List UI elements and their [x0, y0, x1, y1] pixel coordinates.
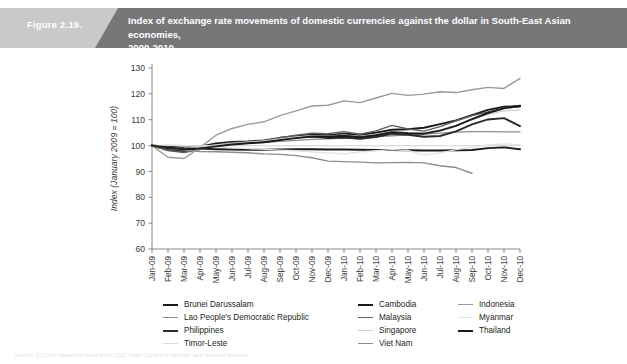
- y-axis-tick-label: 120: [131, 89, 146, 99]
- legend-swatch-icon: [458, 304, 473, 305]
- legend-item[interactable]: Indonesia: [458, 300, 558, 309]
- x-axis-tick-label: Nov-10: [500, 256, 509, 283]
- x-axis-tick-label: Nov-09: [308, 256, 317, 283]
- x-axis: Jan-09Feb-09Mar-09Apr-09May-09Jun-09Jul-…: [148, 249, 525, 283]
- source-note: Source: ESCAP, based on data from CEIC D…: [14, 352, 614, 358]
- figure-title: Index of exchange rate movements of dome…: [128, 14, 620, 55]
- y-axis-title: Index (January 2009 = 100): [109, 106, 119, 211]
- x-axis-tick-label: Jun-10: [420, 256, 429, 281]
- legend-item-label: Brunei Darussalam: [184, 300, 254, 309]
- x-axis-tick-label: Dec-09: [324, 256, 333, 283]
- legend-item[interactable]: Myanmar: [458, 313, 558, 322]
- legend-item-label: Indonesia: [479, 300, 515, 309]
- legend-item[interactable]: Brunei Darussalam: [163, 300, 358, 309]
- legend-row: Brunei DarussalamCambodiaIndonesia: [163, 298, 563, 311]
- x-axis-tick-label: Jan-09: [148, 256, 157, 281]
- x-axis-tick-label: May-09: [212, 256, 221, 284]
- figure-title-line-2: 2009-2010: [128, 41, 620, 55]
- x-axis-tick-label: Mar-10: [372, 256, 381, 282]
- y-axis-tick-label: 100: [131, 141, 146, 151]
- legend-item-label: Cambodia: [379, 300, 416, 309]
- legend-item[interactable]: Timor-Leste: [163, 339, 358, 348]
- figure-header: Figure 2.19. Index of exchange rate move…: [0, 8, 627, 48]
- legend-row: PhilippinesSingaporeThailand: [163, 324, 563, 337]
- chart-legend: Brunei DarussalamCambodiaIndonesiaLao Pe…: [163, 298, 563, 350]
- x-axis-tick-label: Aug-09: [260, 256, 269, 283]
- y-axis-tick-label: 110: [131, 115, 145, 125]
- y-axis-tick-label: 70: [135, 218, 145, 228]
- legend-swatch-icon: [163, 304, 178, 306]
- legend-row: Timor-LesteViet Nam: [163, 337, 563, 350]
- legend-item[interactable]: Viet Nam: [358, 339, 458, 348]
- y-axis-tick-label: 90: [135, 167, 145, 177]
- x-axis-tick-label: Feb-09: [164, 256, 173, 282]
- x-axis-tick-label: Apr-09: [196, 256, 205, 281]
- x-axis-tick-label: Oct-09: [292, 256, 301, 281]
- x-axis-tick-label: Apr-10: [388, 256, 397, 281]
- legend-item[interactable]: Lao People's Democratic Republic: [163, 313, 358, 322]
- x-axis-tick-label: Mar-09: [180, 256, 189, 282]
- x-axis-tick-label: Jan-10: [340, 256, 349, 281]
- line-chart: 60708090100110120130 Jan-09Feb-09Mar-09A…: [0, 48, 627, 296]
- legend-item-label: Myanmar: [479, 313, 513, 322]
- legend-swatch-icon: [358, 330, 373, 331]
- legend-item[interactable]: Singapore: [358, 326, 458, 335]
- legend-item-label: Timor-Leste: [184, 339, 227, 348]
- legend-item-label: Singapore: [379, 326, 416, 335]
- legend-row: Lao People's Democratic RepublicMalaysia…: [163, 311, 563, 324]
- legend-item[interactable]: Cambodia: [358, 300, 458, 309]
- x-axis-tick-label: Feb-10: [356, 256, 365, 282]
- legend-swatch-icon: [358, 304, 373, 306]
- x-axis-tick-label: Sep-09: [276, 256, 285, 283]
- x-axis-tick-label: Oct-10: [484, 256, 493, 281]
- y-axis-title-text: Index (January 2009 = 100): [109, 106, 119, 211]
- figure-number: Figure 2.19.: [27, 19, 82, 30]
- legend-swatch-icon: [458, 330, 473, 332]
- y-axis-tick-label: 80: [135, 192, 145, 202]
- legend-item[interactable]: Malaysia: [358, 313, 458, 322]
- legend-item-label: Philippines: [184, 326, 224, 335]
- x-axis-tick-label: Jun-09: [228, 256, 237, 281]
- x-axis-tick-label: Jul-10: [436, 256, 445, 279]
- legend-swatch-icon: [163, 343, 178, 344]
- legend-item-label: Malaysia: [379, 313, 411, 322]
- figure-title-line-1: Index of exchange rate movements of dome…: [128, 15, 571, 40]
- chart-canvas: 60708090100110120130 Jan-09Feb-09Mar-09A…: [0, 48, 627, 296]
- y-axis-tick-label: 60: [135, 244, 145, 254]
- x-axis-tick-label: Jul-09: [244, 256, 253, 279]
- legend-item-label: Thailand: [479, 326, 510, 335]
- y-axis: 60708090100110120130: [131, 63, 152, 254]
- legend-item-label: Lao People's Democratic Republic: [184, 313, 309, 322]
- legend-swatch-icon: [163, 317, 178, 318]
- legend-swatch-icon: [458, 317, 473, 318]
- legend-swatch-icon: [163, 330, 178, 332]
- x-axis-tick-label: Aug-10: [452, 256, 461, 283]
- legend-item[interactable]: Philippines: [163, 326, 358, 335]
- y-axis-tick-label: 130: [131, 63, 146, 73]
- series-lines: [152, 78, 520, 173]
- legend-swatch-icon: [358, 343, 373, 344]
- x-axis-tick-label: Sep-10: [468, 256, 477, 283]
- legend-item[interactable]: Thailand: [458, 326, 558, 335]
- legend-swatch-icon: [358, 317, 373, 318]
- x-axis-tick-label: Dec-10: [516, 256, 525, 283]
- x-axis-tick-label: May-10: [404, 256, 413, 284]
- legend-item-label: Viet Nam: [379, 339, 413, 348]
